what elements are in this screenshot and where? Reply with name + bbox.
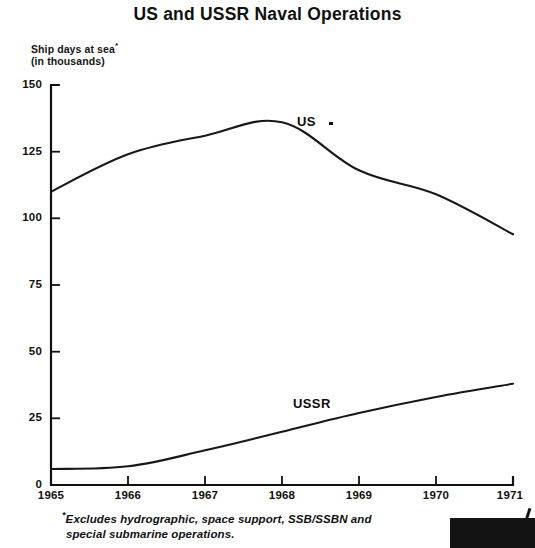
plot-area: [0, 0, 535, 548]
axis-spines: [51, 85, 513, 485]
footnote-line-1: Excludes hydrographic, space support, SS…: [66, 513, 372, 525]
series-label-ussr: USSR: [293, 396, 331, 411]
scan-artifact-block: [450, 518, 535, 548]
y-axis-ticks: [51, 85, 60, 418]
series-line-us: [51, 121, 513, 235]
chart-figure: US and USSR Naval Operations Ship days a…: [0, 0, 535, 548]
series-line-ussr: [51, 384, 513, 469]
footnote-line-2: special submarine operations.: [62, 528, 234, 540]
x-axis-ticks: [128, 476, 436, 485]
footnote: *Excludes hydrographic, space support, S…: [62, 508, 462, 542]
series-label-us: US: [297, 114, 316, 129]
us-label-dash: [329, 122, 333, 125]
